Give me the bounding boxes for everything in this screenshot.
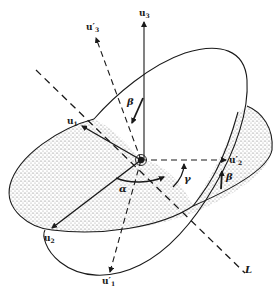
beta-top-arrow — [132, 98, 143, 123]
beta-right-label: β — [225, 171, 233, 182]
u1-prime-label: u′1 — [102, 276, 115, 287]
original-plane — [9, 106, 272, 232]
beta-top-label: β — [126, 96, 134, 107]
u1-label: u1 — [67, 116, 78, 127]
u3-label: u3 — [139, 8, 150, 19]
euler-angles-diagram: u3 u′3 L u1 u2 u′1 u′2 β α γ β — [0, 0, 279, 290]
u2-label: u2 — [44, 233, 55, 244]
u3-prime-label: u′3 — [86, 22, 99, 33]
L-label: L — [244, 264, 252, 275]
gamma-label: γ — [184, 173, 191, 184]
beta-right-arrow — [221, 171, 222, 189]
alpha-label: α — [119, 183, 127, 194]
shaded-ellipse — [9, 106, 272, 232]
origin-dot — [138, 157, 144, 163]
